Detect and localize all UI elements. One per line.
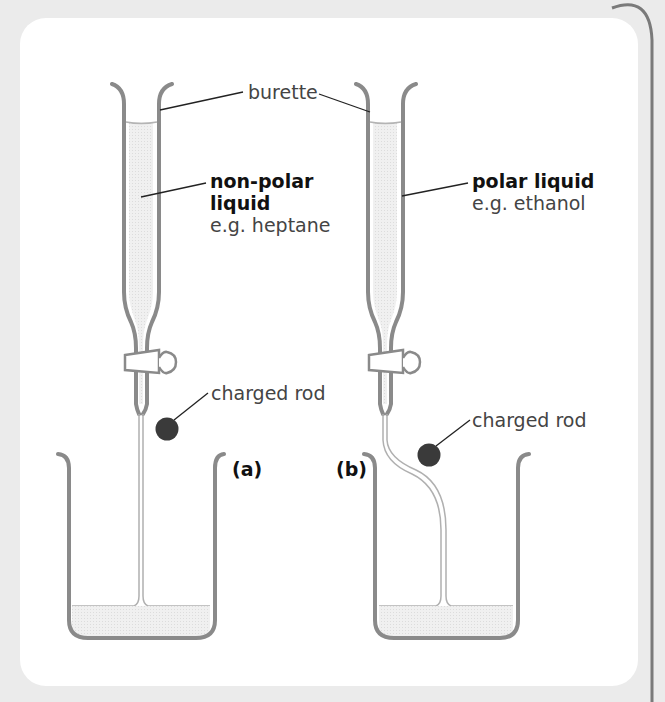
burette-leader-a	[160, 92, 243, 110]
burette-deflection-diagram	[0, 0, 665, 702]
charged-rod-a-icon	[156, 418, 179, 441]
burette-a	[72, 84, 210, 606]
stopcock-a	[125, 350, 159, 373]
figure-page: burette non-polar liquid e.g. heptane po…	[0, 0, 665, 702]
panel-b-label: (b)	[336, 458, 367, 480]
charged-rod-label-b: charged rod	[472, 409, 587, 431]
polar-liquid-label: polar liquid	[472, 170, 594, 192]
page-edge-border	[612, 5, 652, 702]
charged-rod-a-leader	[174, 393, 208, 420]
burette-leader-b	[319, 94, 370, 112]
stopcock-b	[369, 350, 403, 373]
heptane-example-label: e.g. heptane	[210, 214, 331, 236]
non-polar-liquid-label: non-polar	[210, 170, 313, 192]
non-polar-liquid-label-2: liquid	[210, 192, 270, 214]
burette-b	[356, 84, 513, 606]
burette-label: burette	[248, 81, 318, 103]
ethanol-example-label: e.g. ethanol	[472, 192, 586, 214]
panel-a-label: (a)	[232, 458, 262, 480]
charged-rod-b-icon	[418, 444, 441, 467]
charged-rod-b-leader	[436, 420, 470, 446]
beaker-a	[58, 454, 224, 638]
polar-leader	[402, 183, 468, 196]
charged-rod-label-a: charged rod	[211, 382, 326, 404]
